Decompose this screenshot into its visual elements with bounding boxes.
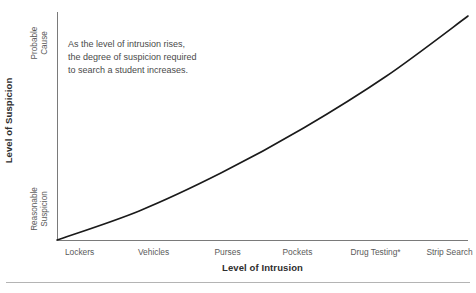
x-axis-title: Level of Intrusion <box>57 262 468 273</box>
chart-annotation: As the level of intrusion rises, the deg… <box>68 38 263 78</box>
x-tick-label: Strip Search <box>426 246 472 259</box>
y-tick-reasonable-suspicion-line1: Reasonable <box>30 187 39 231</box>
x-tick-labels: LockersVehiclesPursesPocketsDrug Testing… <box>57 246 468 260</box>
y-tick-probable-cause: Probable Cause <box>27 10 53 76</box>
annotation-line-3: to search a student increases. <box>68 64 263 77</box>
y-tick-reasonable-suspicion-line2: Suspicion <box>40 191 49 227</box>
x-tick-label: Drug Testing* <box>350 246 400 259</box>
y-tick-probable-cause-line1: Probable <box>30 27 39 60</box>
annotation-line-1: As the level of intrusion rises, <box>68 38 263 51</box>
y-axis-title: Level of Suspicion <box>0 0 18 240</box>
y-axis-title-label: Level of Suspicion <box>4 77 15 163</box>
page-separator-rule <box>6 282 470 283</box>
x-tick-label: Purses <box>215 246 241 259</box>
x-tick-label: Pockets <box>283 246 313 259</box>
x-tick-label: Lockers <box>65 246 94 259</box>
x-tick-label: Vehicles <box>138 246 169 259</box>
y-tick-probable-cause-line2: Cause <box>40 31 49 55</box>
suspicion-vs-intrusion-chart: Level of Suspicion Probable Cause Reason… <box>0 0 476 293</box>
annotation-line-2: the degree of suspicion required <box>68 51 263 64</box>
y-tick-reasonable-suspicion: Reasonable Suspicion <box>27 176 53 242</box>
